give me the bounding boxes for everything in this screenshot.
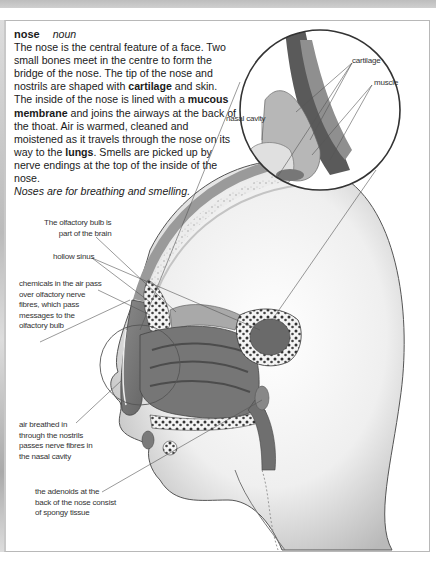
label-chemicals: chemicals in the air pass over olfactory… [19,279,102,332]
label-line: the nasal cavity [19,452,92,463]
label-muscle: muscle [374,78,398,89]
sinus-cavity [250,319,290,355]
label-line: passes nerve fibres in [19,441,92,452]
label-line: chemicals in the air pass [19,279,102,290]
label-line: fibres, which pass [19,300,102,311]
label-line: hollow sinus [53,252,94,263]
label-line: The olfactory bulb is [44,218,111,229]
label-line: of spongy tissue [35,508,116,519]
label-nasal-cavity: nasal cavity [226,114,265,125]
label-line: over olfactory nerve [19,290,102,301]
inset-magnified-nose [240,30,400,191]
label-air-breathed: air breathed in through the nostrils pas… [19,420,92,462]
label-line: the adenoids at the [35,487,116,498]
label-line: olfactory bulb [19,321,102,332]
label-line: messages to the [19,311,102,322]
label-adenoids: the adenoids at the back of the nose con… [35,487,116,519]
label-hollow-sinus: hollow sinus [53,252,94,263]
label-line: air breathed in [19,420,92,431]
label-line: part of the brain [44,229,111,240]
label-olfactory-bulb: The olfactory bulb is part of the brain [44,218,111,239]
label-cartilage: cartilage [352,56,380,67]
label-line: through the nostrils [19,431,92,442]
label-line: back of the nose consist [35,498,116,509]
